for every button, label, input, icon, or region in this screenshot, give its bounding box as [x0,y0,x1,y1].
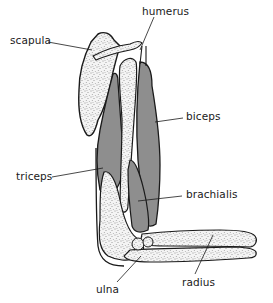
elbow-joint-2 [143,237,153,247]
label-biceps: biceps [186,111,221,122]
triceps-leader [52,168,103,177]
scapula-leader [48,42,92,50]
label-triceps: triceps [16,171,52,182]
biceps-leader [155,118,183,122]
label-ulna: ulna [96,284,119,295]
label-humerus: humerus [142,6,189,17]
radius-bone [140,230,256,247]
ulna-bone [124,247,256,262]
label-radius: radius [182,277,215,288]
label-brachialis: brachialis [186,189,238,200]
humerus-leader [140,17,154,50]
label-scapula: scapula [10,35,51,46]
elbow-joint [132,238,144,250]
